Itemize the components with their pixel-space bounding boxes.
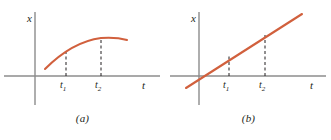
- panel-b-tick-t2-sub: 2: [262, 85, 266, 93]
- panel-b-y-axis-label: x: [191, 12, 196, 24]
- panel-a-tick-t2-sub: 2: [98, 85, 102, 93]
- panel-b-tick-t1-sub: 1: [226, 85, 230, 93]
- panel-b-x-axis-label: t: [310, 79, 313, 91]
- panel-b-tick-t2: t2: [259, 79, 265, 93]
- panel-b-caption: (b): [166, 112, 331, 124]
- panel-b-line: [186, 14, 302, 88]
- panel-a-curve: [45, 38, 127, 69]
- panel-a-caption: (a): [0, 112, 165, 124]
- panel-a: x t t1 t2 (a): [0, 0, 165, 140]
- panel-a-tick-t1: t1: [60, 79, 66, 93]
- panel-a-tick-t1-sub: 1: [63, 85, 67, 93]
- panel-a-x-axis-label: t: [142, 79, 145, 91]
- panel-b-tick-t1: t1: [223, 79, 229, 93]
- panel-b: x t t1 t2 (b): [166, 0, 331, 140]
- panel-a-tick-t2: t2: [95, 79, 101, 93]
- panel-a-y-axis-label: x: [27, 12, 32, 24]
- physics-figure-pair: x t t1 t2 (a) x t t1 t2 (b): [0, 0, 331, 140]
